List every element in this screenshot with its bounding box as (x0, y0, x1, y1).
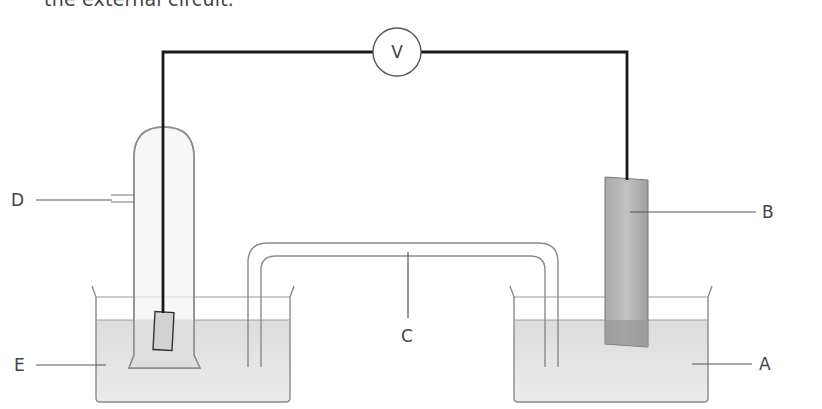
label-e-text: E (14, 355, 25, 375)
label-c-text: C (401, 326, 413, 346)
left-electrode (153, 312, 174, 351)
label-b-text: B (762, 202, 774, 222)
label-c: C (401, 252, 413, 346)
voltmeter: V (373, 28, 421, 76)
label-e: E (14, 355, 106, 375)
voltmeter-label: V (391, 42, 403, 62)
salt-bridge (248, 243, 558, 367)
label-a-text: A (759, 354, 771, 374)
right-electrode (605, 177, 648, 347)
label-b: B (630, 202, 774, 222)
electrochemical-cell-diagram: V D E C B A (0, 0, 822, 409)
label-d-text: D (11, 190, 24, 210)
label-d: D (11, 190, 112, 210)
